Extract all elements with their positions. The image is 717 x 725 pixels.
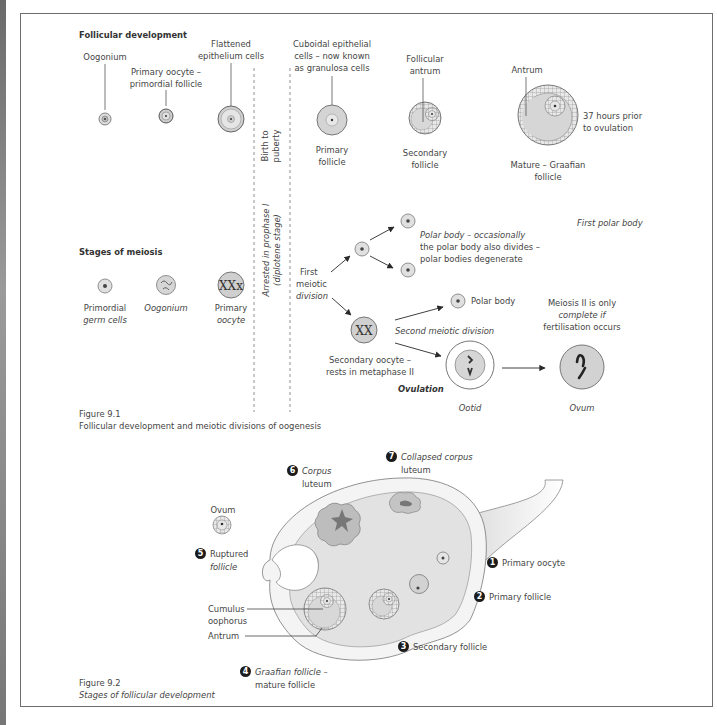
oogonium-cell [99, 64, 111, 125]
svg-text:XX: XX [355, 324, 373, 338]
badge-3: 3 [398, 641, 409, 652]
label-meiosis-oogonium: Oogonium [136, 302, 196, 315]
ruptured-follicle [272, 545, 318, 591]
label-meiosis2-line1: Meiosis II is only [540, 297, 624, 310]
arrow-to-secondary-oocyte [332, 298, 351, 315]
label-cuboidal-line3: as granulosa cells [290, 62, 374, 75]
first-polar-body-cell [355, 242, 369, 256]
label-primary-follicle-line2: follicle [302, 156, 362, 169]
badge-4: 4 [240, 666, 251, 677]
label-antrum: Antrum [505, 64, 549, 77]
label-first-meiotic-line3: division [296, 290, 328, 303]
polar-body-second-cell [451, 294, 465, 308]
label-ootid: Ootid [450, 402, 490, 415]
ovum-cell [560, 345, 604, 389]
badge-6: 6 [287, 465, 298, 476]
label-primordial-line1: Primordial [75, 302, 135, 315]
badge-7: 7 [386, 451, 397, 462]
polar-body-top-cell [401, 214, 415, 228]
label-arrested-prophase: Arrested in prophase I (diplotene stage) [261, 198, 285, 302]
ovary-secondary-follicle [369, 589, 399, 619]
label-meiosis-primary-line2: oocyte [206, 314, 256, 327]
oogonium-meiosis-cell [157, 276, 176, 295]
label-first-polar-body: First polar body [577, 217, 643, 230]
label-37-hours-line2: to ovulation [583, 122, 633, 135]
ovary-primary-follicle [410, 575, 429, 594]
primordial-germ-cell [98, 279, 112, 293]
arrow-polar-top [370, 227, 394, 240]
label-arrested-line1: Arrested in prophase I [261, 198, 272, 302]
label-primary-follicle-line1: Primary [302, 144, 362, 157]
figure-9-2-caption: Stages of follicular development [79, 689, 215, 702]
stage-7-label: Collapsed corpusluteum [401, 451, 473, 476]
released-ovum [213, 516, 231, 534]
label-birth-line1: Birth to [260, 116, 271, 176]
ootid-cell [446, 341, 494, 389]
corpus-luteum [315, 503, 360, 546]
primordial-follicle-cell [159, 90, 173, 123]
label-ovulation: Ovulation [398, 383, 444, 396]
stage-1-primary-oocyte: 1 Primary oocyte [487, 557, 565, 570]
badge-5: 5 [195, 548, 206, 559]
label-follicular-antrum-line1: Follicular [400, 53, 450, 66]
label-secondary-follicle-line1: Secondary [395, 147, 455, 160]
label-primary-oocyte-line2: primordial follicle [126, 78, 206, 91]
label-birth-to-puberty: Birth to puberty [260, 116, 284, 176]
label-cuboidal-line1: Cuboidal epithelial [290, 38, 374, 51]
label-ovum: Ovum [562, 402, 602, 415]
label-secondary-follicle-line2: follicle [395, 159, 455, 172]
stages-of-meiosis-heading: Stages of meiosis [79, 246, 162, 259]
primary-follicle-cell [317, 76, 347, 135]
label-flattened-line1: Flattened [196, 38, 266, 51]
label-flattened-line2: epithelium cells [196, 50, 266, 63]
label-cumulus-line2: oophorus [208, 615, 247, 628]
label-cuboidal-line2: cells – now known [290, 50, 374, 63]
label-primordial-line2: germ cells [75, 314, 135, 327]
label-cumulus-line1: Cumulus [208, 603, 245, 616]
figure-9-1-number: Figure 9.1 [79, 408, 121, 421]
label-first-meiotic-line2: meiotic [296, 278, 327, 291]
arrow-to-first-polar [331, 256, 350, 272]
stage-6-label: Corpusluteum [302, 465, 332, 490]
stage-6-corpus-luteum: 6 Corpusluteum [287, 465, 332, 490]
label-meiosis-primary-line1: Primary [206, 302, 256, 315]
stage-5-label: Rupturedfollicle [210, 548, 248, 573]
stage-4-label: Graafian follicle –mature follicle [255, 666, 328, 691]
figure-9-2-number: Figure 9.2 [79, 677, 121, 690]
ovary-primary-oocyte [437, 552, 449, 564]
label-birth-line2: puberty [271, 116, 282, 176]
stage-4-graafian-follicle: 4 Graafian follicle –mature follicle [240, 666, 328, 691]
label-secondary-oocyte-line1: Secondary oocyte – [326, 354, 414, 367]
svg-text:XXx: XXx [219, 279, 243, 293]
stage-3-label: Secondary follicle [413, 641, 487, 654]
label-follicular-antrum-line2: antrum [400, 65, 450, 78]
badge-1: 1 [487, 557, 498, 568]
stage-5-ruptured-follicle: 5 Rupturedfollicle [195, 548, 248, 573]
label-37-hours-line1: 37 hours prior [583, 110, 642, 123]
label-second-meiotic: Second meiotic division [395, 325, 494, 338]
label-polar-note-line1: Polar body – occasionally [420, 229, 525, 242]
stage-3-secondary-follicle: 3 Secondary follicle [398, 641, 487, 654]
label-meiosis2-line3: fertilisation occurs [540, 321, 624, 334]
flattened-epithelium-cell [218, 63, 244, 132]
secondary-follicle-cell [409, 78, 441, 134]
stage-2-primary-follicle: 2 Primary follicle [474, 591, 551, 604]
label-primary-oocyte-line1: Primary oocyte – [126, 66, 206, 79]
label-graafian-line2: follicle [500, 171, 596, 184]
label-polar-body: Polar body [471, 295, 515, 308]
label-fig2-antrum: Antrum [208, 630, 239, 643]
label-graafian-line1: Mature – Graafian [500, 159, 596, 172]
label-first-meiotic-line1: First [300, 266, 318, 279]
label-oogonium: Oogonium [80, 51, 130, 64]
secondary-oocyte-cell: XX [351, 317, 377, 343]
label-polar-note-line3: polar bodies degenerate [420, 253, 523, 266]
label-meiosis2-line2: complete if [540, 309, 624, 322]
label-secondary-oocyte-line2: rests in metaphase II [326, 366, 414, 379]
badge-2: 2 [474, 591, 485, 602]
arrow-polar-bottom [370, 256, 393, 268]
stage-7-collapsed-corpus-luteum: 7 Collapsed corpusluteum [386, 451, 473, 476]
label-fig2-ovum: Ovum [203, 504, 243, 517]
stage-2-label: Primary follicle [489, 591, 551, 604]
polar-body-bottom-cell [401, 263, 415, 277]
follicular-development-heading: Follicular development [79, 29, 187, 42]
